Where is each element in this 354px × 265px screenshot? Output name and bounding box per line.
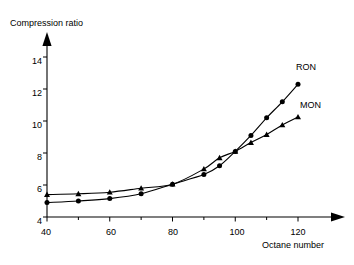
plot-area [0,0,354,265]
data-point-ron-40 [45,200,50,205]
chart-container: Compression ratio Octane number 14 12 10… [0,0,354,265]
data-point-mon-95 [217,155,223,160]
data-point-ron-70 [139,191,144,196]
y-axis-arrow-icon [42,32,51,46]
data-point-ron-105 [248,133,253,138]
x-axis-arrow-icon [331,212,345,221]
data-point-ron-115 [280,99,285,104]
series-ron [45,82,301,205]
series-group [44,82,301,205]
data-point-mon-105 [248,140,254,145]
data-point-ron-120 [296,82,301,87]
data-point-mon-120 [295,114,301,119]
data-point-ron-110 [264,115,269,120]
data-point-ron-50 [76,199,81,204]
series-mon [44,114,301,197]
data-point-mon-115 [279,122,285,127]
data-point-ron-90 [201,172,206,177]
data-point-ron-95 [217,163,222,168]
data-point-ron-60 [107,196,112,201]
data-point-mon-90 [201,166,207,171]
x-axis-ticks [47,217,298,222]
data-point-mon-110 [264,132,270,137]
